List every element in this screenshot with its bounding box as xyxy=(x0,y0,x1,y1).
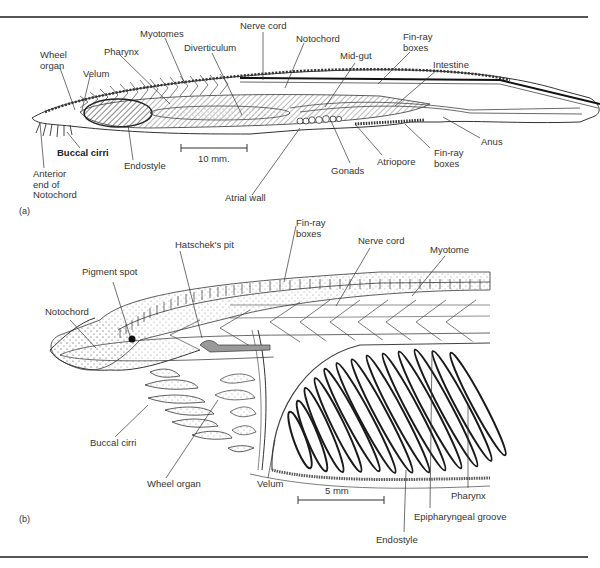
label-a-notochord: Notochord xyxy=(296,34,340,45)
label-a-velum: Velum xyxy=(83,69,109,80)
label-a-fin-ray-boxes-bottom: Fin-ray boxes xyxy=(434,148,464,169)
label-b-notochord: Notochord xyxy=(45,307,89,318)
label-b-pharynx: Pharynx xyxy=(451,491,486,502)
scale-bar-b-label: 5 mm xyxy=(325,486,349,497)
label-a-anus: Anus xyxy=(481,137,503,148)
label-a-wheel-organ: Wheel organ xyxy=(40,50,67,71)
label-a-gonads: Gonads xyxy=(331,166,364,177)
label-a-diverticulum: Diverticulum xyxy=(184,43,236,54)
label-a-myotomes: Myotomes xyxy=(140,29,184,40)
label-a-endostyle: Endostyle xyxy=(124,161,166,172)
label-b-endostyle: Endostyle xyxy=(376,535,418,546)
label-b-pigment-spot: Pigment spot xyxy=(82,267,137,278)
scale-bar-a-label: 10 mm. xyxy=(198,154,230,165)
label-a-intestine: Intestine xyxy=(433,60,469,71)
label-a-pharynx: Pharynx xyxy=(104,47,139,58)
label-a-atrial-wall: Atrial wall xyxy=(225,193,266,204)
label-b-buccal-cirri: Buccal cirri xyxy=(90,438,136,449)
label-a-anterior-notochord: Anterior end of Notochord xyxy=(33,169,77,201)
label-b-velum: Velum xyxy=(257,479,283,490)
label-b-wheel-organ: Wheel organ xyxy=(147,479,201,490)
label-b-nerve-cord: Nerve cord xyxy=(358,236,404,247)
label-b-myotome: Myotome xyxy=(430,245,469,256)
figure-b-drawing xyxy=(0,0,600,568)
label-a-mid-gut: Mid-gut xyxy=(340,51,372,62)
panel-label-a: (a) xyxy=(19,206,30,217)
label-b-hatscheks-pit: Hatschek's pit xyxy=(175,240,234,251)
label-a-fin-ray-boxes-top: Fin-ray boxes xyxy=(403,32,433,53)
label-a-buccal-cirri: Buccal cirri xyxy=(57,148,109,159)
amphioxus-anatomy-diagram: Wheel organ Velum Pharynx Myotomes Diver… xyxy=(0,0,600,568)
label-a-atriopore: Atriopore xyxy=(377,157,416,168)
label-b-fin-ray-boxes: Fin-ray boxes xyxy=(296,218,326,239)
label-a-nerve-cord: Nerve cord xyxy=(240,21,286,32)
label-b-epipharyngeal-groove: Epipharyngeal groove xyxy=(414,512,506,523)
panel-label-b: (b) xyxy=(19,514,30,525)
